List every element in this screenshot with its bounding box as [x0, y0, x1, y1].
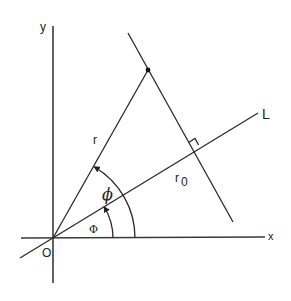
perpendicular-line: [128, 33, 233, 222]
point-marker: [146, 68, 151, 73]
angle-Phi-label: Φ: [89, 223, 98, 236]
angle-phi-label: ϕ: [102, 185, 113, 204]
line-L-label: L: [262, 106, 270, 122]
arc-phi: [95, 167, 136, 238]
line-L: [20, 113, 258, 258]
r0-main: r: [175, 171, 179, 185]
arc-Phi: [104, 207, 113, 238]
polar-line-diagram: y x O L r r 0 ϕ Φ: [0, 0, 291, 301]
y-axis-label: y: [40, 20, 46, 34]
r0-label: r 0: [175, 171, 188, 189]
x-axis-label: x: [268, 230, 274, 242]
x-axis: [21, 237, 265, 238]
r0-subscript: 0: [181, 175, 188, 189]
radius-r-label: r: [93, 133, 97, 147]
radius-r: [53, 70, 148, 238]
origin-label: O: [42, 246, 51, 260]
